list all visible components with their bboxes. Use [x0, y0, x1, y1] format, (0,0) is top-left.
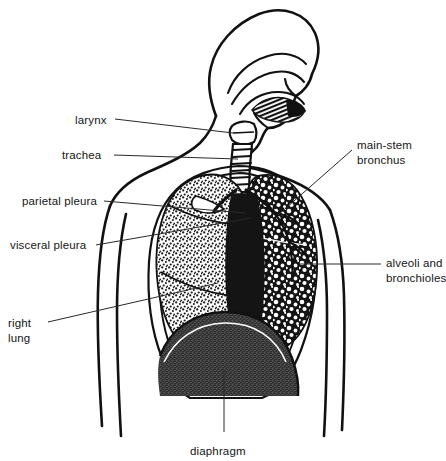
label-alveoli-line2: bronchioles — [386, 271, 446, 286]
label-main-stem-bronchus-line1: main-stem — [357, 138, 412, 153]
label-diaphragm: diaphragm — [190, 444, 246, 459]
label-parietal-pleura: parietal pleura — [22, 194, 97, 209]
label-right-lung-line2: lung — [8, 331, 30, 346]
tongue — [252, 98, 306, 123]
label-right-lung-line1: right — [8, 316, 31, 331]
label-visceral-pleura: visceral pleura — [10, 238, 86, 253]
respiratory-system-figure: larynx trachea parietal pleura visceral … — [0, 0, 446, 461]
label-main-stem-bronchus-line2: bronchus — [357, 153, 406, 168]
label-larynx: larynx — [75, 113, 107, 128]
label-trachea: trachea — [62, 148, 101, 163]
anatomy-illustration — [0, 0, 446, 461]
label-alveoli-line1: alveoli and — [386, 256, 443, 271]
larynx — [230, 122, 257, 145]
